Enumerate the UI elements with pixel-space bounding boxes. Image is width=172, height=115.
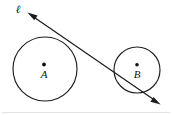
circle-a-center-dot	[42, 63, 46, 67]
line-ell-label: ℓ	[16, 3, 21, 15]
circle-a-label: A	[40, 68, 48, 80]
circle-b-center-dot	[135, 63, 139, 67]
figure-canvas: A B ℓ	[0, 0, 172, 115]
geometry-figure: A B ℓ	[0, 0, 172, 115]
circle-b-label: B	[134, 68, 141, 80]
transversal-line	[32, 15, 157, 101]
